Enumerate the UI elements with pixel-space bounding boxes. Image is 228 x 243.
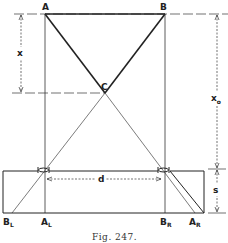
label-x: x: [17, 48, 23, 58]
label-d: d: [98, 174, 104, 184]
ray-left: [12, 93, 105, 213]
label-a-l: AL: [41, 217, 52, 228]
label-s: s: [213, 185, 218, 195]
edge-bc: [105, 14, 165, 93]
label-b-l: BL: [3, 217, 14, 228]
stereoscopic-diagram: d x xo s A B C BL AL BR AR Fig. 247.: [0, 0, 228, 243]
lens-right-icon: [158, 167, 169, 173]
label-b: B: [160, 2, 167, 12]
label-a-r: AR: [189, 217, 201, 228]
ray-right: [105, 93, 195, 213]
label-c: C: [101, 82, 108, 92]
label-a: A: [42, 2, 49, 12]
figure-caption: Fig. 247.: [92, 232, 137, 242]
edge-ac: [45, 14, 105, 93]
label-b-r: BR: [160, 217, 172, 228]
